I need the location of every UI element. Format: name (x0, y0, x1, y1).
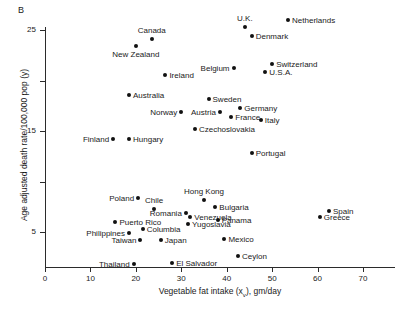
data-point (250, 151, 254, 155)
data-point (232, 66, 236, 70)
x-tick-label-50: 50 (260, 274, 284, 283)
data-point-label: Hungary (133, 135, 163, 144)
data-point (163, 73, 167, 77)
data-point-label: El Salvador (176, 259, 217, 268)
data-point-label: Czechoslovakia (199, 124, 255, 133)
x-axis-line (45, 267, 395, 268)
data-point-label: U.S.A. (269, 68, 292, 77)
data-point-label: Bulgaria (219, 202, 248, 211)
data-point-label: Canada (138, 26, 166, 35)
data-point (202, 198, 206, 202)
data-point (159, 238, 163, 242)
x-tick-label-0: 0 (33, 274, 57, 283)
data-point (141, 227, 145, 231)
y-tick-15 (40, 131, 45, 132)
data-point-label: U.K. (237, 14, 253, 23)
data-point-label: Romania (150, 208, 182, 217)
data-point (222, 237, 226, 241)
data-point (270, 62, 274, 66)
data-point (263, 70, 267, 74)
data-point (132, 262, 136, 266)
y-tick-5 (40, 232, 45, 233)
data-point (136, 196, 140, 200)
data-point (170, 261, 174, 265)
data-point (138, 238, 142, 242)
data-point (150, 37, 154, 41)
data-point (238, 106, 242, 110)
y-axis-title: Age adjusted death rate/100,000 pop (y) (19, 57, 29, 233)
data-point-label: Greece (324, 212, 350, 221)
data-point-label: Denmark (256, 32, 288, 41)
data-point (250, 34, 254, 38)
y-tick-25 (40, 30, 45, 31)
x-tick-20 (136, 267, 137, 272)
data-point-label: Japan (165, 236, 187, 245)
data-point-label: Australia (133, 90, 164, 99)
y-tick-20 (40, 81, 45, 82)
x-tick-40 (227, 267, 228, 272)
data-point (193, 127, 197, 131)
x-tick-50 (272, 267, 273, 272)
data-point-label: Norway (150, 107, 177, 116)
plot-area: 01020304050607051525 NetherlandsU.K.Cana… (0, 0, 401, 310)
y-axis-line (45, 27, 46, 268)
x-tick-10 (90, 267, 91, 272)
data-point (186, 222, 190, 226)
data-point-label: Netherlands (292, 15, 335, 24)
data-point (113, 220, 117, 224)
data-point-label: Yugoslavia (192, 219, 231, 228)
data-point-label: Portugal (256, 149, 286, 158)
data-point-label: Finland (83, 135, 109, 144)
data-point-label: Chile (145, 196, 163, 205)
data-point-label: Italy (265, 115, 280, 124)
data-point (127, 93, 131, 97)
data-point-label: Poland (109, 193, 134, 202)
x-tick-label-10: 10 (78, 274, 102, 283)
y-tick-10 (40, 182, 45, 183)
data-point-label: New Zealand (112, 50, 159, 59)
data-point (127, 231, 131, 235)
data-point (286, 18, 290, 22)
data-point (188, 215, 192, 219)
x-tick-label-30: 30 (169, 274, 193, 283)
data-point (134, 44, 138, 48)
data-point (236, 254, 240, 258)
data-point (111, 137, 115, 141)
x-axis-title: Vegetable fat intake (xv), gm/day (45, 286, 395, 298)
x-tick-60 (318, 267, 319, 272)
x-tick-label-60: 60 (306, 274, 330, 283)
data-point-label: France (235, 112, 260, 121)
x-tick-label-40: 40 (215, 274, 239, 283)
data-point-label: Austria (191, 107, 216, 116)
x-tick-label-20: 20 (124, 274, 148, 283)
data-point-label: Belgium (201, 64, 230, 73)
data-point-label: Sweden (213, 94, 242, 103)
data-point (229, 115, 233, 119)
data-point (127, 137, 131, 141)
y-tick-label-25: 25 (14, 25, 36, 34)
data-point-label: Ireland (169, 71, 193, 80)
data-point (243, 25, 247, 29)
data-point-label: Hong Kong (184, 187, 224, 196)
data-point (259, 118, 263, 122)
x-tick-70 (363, 267, 364, 272)
scatter-plot-figure: B 01020304050607051525 NetherlandsU.K.Ca… (0, 0, 401, 310)
data-point (218, 110, 222, 114)
x-tick-0 (45, 267, 46, 272)
data-point (207, 97, 211, 101)
data-point (184, 211, 188, 215)
data-point (213, 205, 217, 209)
data-point-label: Ceylon (242, 252, 267, 261)
data-point-label: Germany (244, 103, 277, 112)
data-point (179, 110, 183, 114)
data-point-label: Mexico (228, 235, 253, 244)
data-point-label: Thailand (99, 260, 130, 269)
data-point-label: Columbia (147, 224, 181, 233)
x-tick-label-70: 70 (351, 274, 375, 283)
data-point (318, 215, 322, 219)
data-point-label: Taiwan (111, 236, 136, 245)
x-label-subscript: v (243, 291, 246, 298)
